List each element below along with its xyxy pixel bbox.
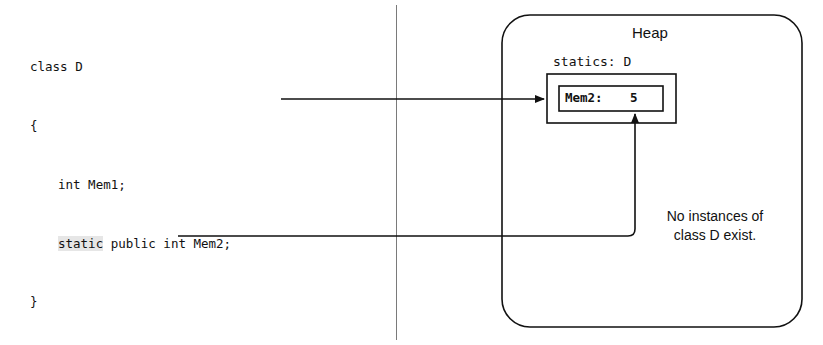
heap-title: Heap [632, 24, 668, 41]
heap-container [502, 15, 802, 327]
mem2-field-value: 5 [630, 89, 638, 107]
no-instances-note: No instances of class D exist. [650, 207, 780, 245]
statics-label: statics: D [553, 53, 631, 71]
arrow-assignment-to-field [178, 114, 635, 236]
note-line-1: No instances of [650, 207, 780, 226]
note-line-2: class D exist. [650, 226, 780, 245]
mem2-field-name: Mem2: [565, 89, 603, 107]
diagram-graphics [0, 0, 823, 345]
